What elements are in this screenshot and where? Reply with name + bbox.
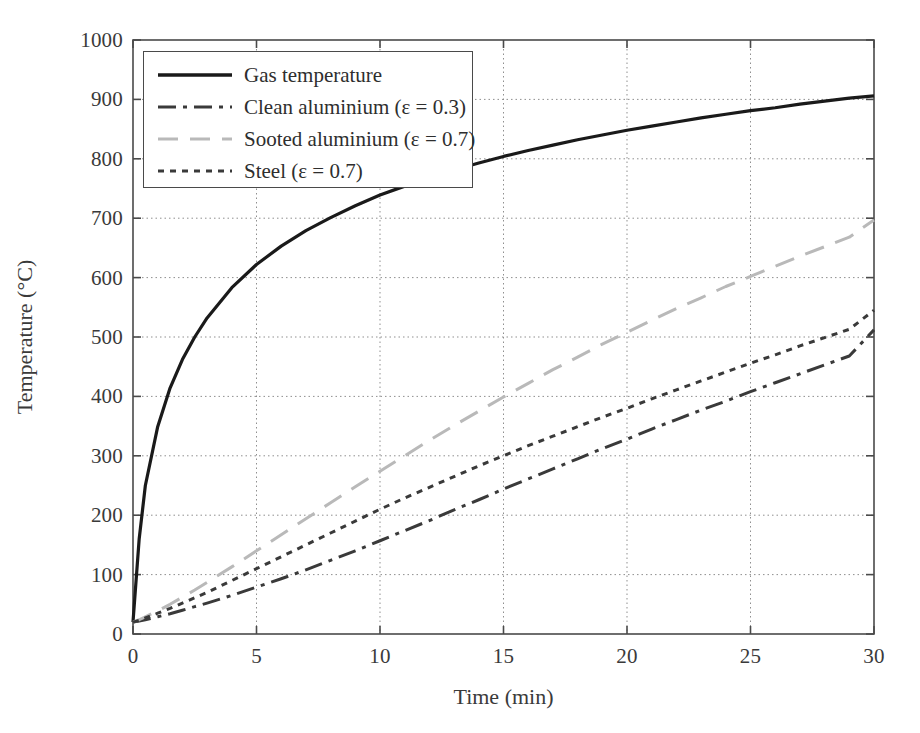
chart-legend: Gas temperatureClean aluminium (ε = 0.3)… xyxy=(143,51,473,188)
legend-item-label: Gas temperature xyxy=(244,65,382,86)
legend-line-sample xyxy=(156,97,234,117)
x-tick-label: 30 xyxy=(863,644,884,669)
x-tick-label: 0 xyxy=(128,644,139,669)
y-tick-label: 100 xyxy=(55,562,123,587)
y-tick-label: 400 xyxy=(55,384,123,409)
y-tick-label: 300 xyxy=(55,443,123,468)
y-tick-label: 900 xyxy=(55,87,123,112)
legend-item-label: Clean aluminium (ε = 0.3) xyxy=(244,97,466,118)
x-tick-label: 5 xyxy=(251,644,262,669)
x-tick-label: 10 xyxy=(369,644,390,669)
legend-line-sample xyxy=(156,65,234,85)
series-line-steel-0-7 xyxy=(133,310,874,622)
legend-item[interactable]: Clean aluminium (ε = 0.3) xyxy=(144,90,472,124)
legend-item-label: Sooted aluminium (ε = 0.7) xyxy=(244,129,475,150)
legend-line-sample xyxy=(156,161,234,181)
x-tick-label: 15 xyxy=(493,644,514,669)
legend-item[interactable]: Gas temperature xyxy=(144,58,472,92)
legend-line-sample xyxy=(156,129,234,149)
y-tick-label: 0 xyxy=(55,622,123,647)
chart-figure: 10009008007006005004003002001000 0510152… xyxy=(0,0,920,733)
series-line-sooted-aluminium-0-7 xyxy=(133,220,874,622)
y-tick-label: 600 xyxy=(55,265,123,290)
y-tick-label: 800 xyxy=(55,146,123,171)
y-tick-label: 1000 xyxy=(55,28,123,53)
legend-item[interactable]: Sooted aluminium (ε = 0.7) xyxy=(144,122,472,156)
x-tick-label: 25 xyxy=(740,644,761,669)
x-axis-title: Time (min) xyxy=(453,684,553,710)
legend-item-label: Steel (ε = 0.7) xyxy=(244,161,363,182)
y-tick-label: 500 xyxy=(55,325,123,350)
y-axis-title: Temperature (°C) xyxy=(12,260,38,414)
y-tick-label: 700 xyxy=(55,206,123,231)
y-tick-label: 200 xyxy=(55,503,123,528)
legend-item[interactable]: Steel (ε = 0.7) xyxy=(144,154,472,188)
x-tick-label: 20 xyxy=(616,644,637,669)
